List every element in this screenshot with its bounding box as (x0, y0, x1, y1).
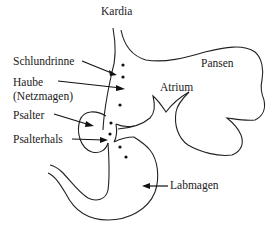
label-psalter: Psalter (13, 109, 44, 122)
psalterhals-wedge (114, 124, 134, 142)
dot (121, 63, 124, 66)
dot (108, 132, 111, 135)
arrowhead-psalter (85, 121, 94, 127)
label-pansen: Pansen (201, 57, 234, 70)
labmagen-outer (48, 137, 158, 220)
label-atrium: Atrium (160, 81, 193, 94)
arrow-psalterhals (72, 139, 104, 140)
arrow-psalter (54, 114, 90, 125)
atrium-notch (118, 92, 189, 129)
arrowhead-haube (116, 85, 125, 91)
label-labmagen: Labmagen (170, 179, 219, 192)
dot (118, 145, 121, 148)
dot (124, 155, 127, 158)
arrowhead-psalterhals (100, 137, 108, 143)
label-psalterhals: Psalterhals (13, 133, 63, 146)
arrowhead-labmagen (142, 183, 150, 189)
stomach-diagram: Kardia Schlundrinne Haube (Netzmagen) Pa… (0, 0, 274, 233)
arrowhead-schlundrinne (109, 70, 117, 76)
arrow-haube (58, 81, 121, 88)
label-haube-netzmagen: (Netzmagen) (13, 90, 73, 103)
arrow-schlundrinne (82, 61, 114, 74)
dot (118, 103, 121, 106)
dot (121, 75, 124, 78)
label-haube: Haube (13, 76, 43, 89)
label-schlundrinne: Schlundrinne (13, 55, 74, 68)
dot (109, 121, 112, 124)
label-kardia: Kardia (101, 5, 132, 18)
pansen-right-side (176, 92, 265, 155)
